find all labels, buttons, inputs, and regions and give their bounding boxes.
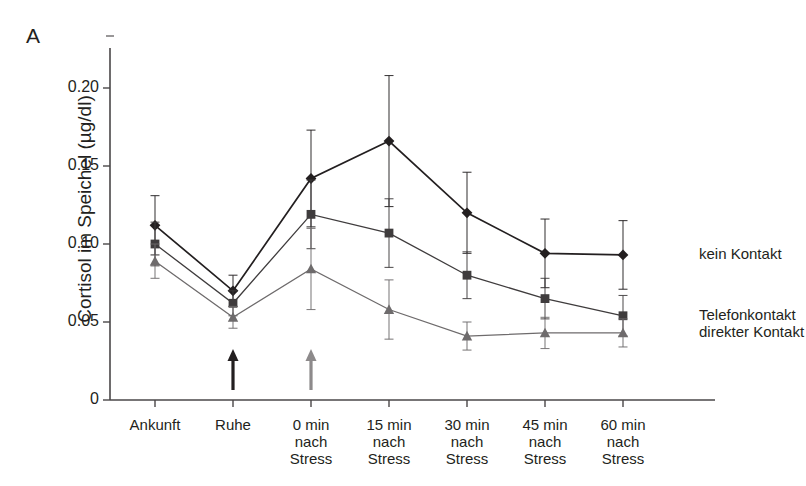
legend-item-triangle: direkter Kontakt xyxy=(699,323,804,340)
x-tick-label-line: Stress xyxy=(368,450,411,467)
legend-item-label: Telefonkontakt xyxy=(699,306,796,323)
arrow-head xyxy=(228,349,239,361)
x-tick-label-line: Ruhe xyxy=(215,416,251,433)
x-tick-label-line: nach xyxy=(373,433,406,450)
marker-triangle xyxy=(150,256,160,266)
marker-triangle xyxy=(384,304,394,314)
marker-diamond xyxy=(540,248,551,259)
legend-item-diamond: kein Kontakt xyxy=(699,245,782,262)
x-tick-label: 15 minnachStress xyxy=(350,416,428,467)
x-tick-label-line: nach xyxy=(295,433,328,450)
x-tick-label-line: Stress xyxy=(446,450,489,467)
marker-square xyxy=(385,229,394,238)
x-tick-label-line: Stress xyxy=(602,450,645,467)
x-tick-label-line: 60 min xyxy=(600,416,645,433)
marker-square xyxy=(307,210,316,219)
legend-item-square: Telefonkontakt xyxy=(699,306,796,323)
y-tick-label: 0.20 xyxy=(47,78,99,96)
marker-diamond xyxy=(618,250,629,261)
annotation-arrows xyxy=(228,349,317,390)
legend-item-label: kein Kontakt xyxy=(699,245,782,262)
panel-label: A xyxy=(26,24,41,48)
x-tick-label-line: 0 min xyxy=(293,416,330,433)
marker-square xyxy=(541,294,550,303)
plot-area xyxy=(0,0,806,486)
x-tick-label-line: nach xyxy=(607,433,640,450)
x-tick-label-line: 45 min xyxy=(522,416,567,433)
x-tick-label: 30 minnachStress xyxy=(428,416,506,467)
chart-figure: A Cortisol im Speichel (µg/dl) 00.050.10… xyxy=(0,0,806,486)
y-tick-label: 0.05 xyxy=(47,312,99,330)
legend-item-label: direkter Kontakt xyxy=(699,323,804,340)
x-tick-label-line: Stress xyxy=(524,450,567,467)
arrow-ruhe-icon xyxy=(228,349,239,390)
x-tick-label: Ankunft xyxy=(116,416,194,433)
x-tick-label-line: nach xyxy=(451,433,484,450)
arrow-head xyxy=(306,349,317,361)
series-kein-kontakt xyxy=(150,76,629,307)
data-series-group xyxy=(150,76,629,351)
y-tick-label: 0.10 xyxy=(47,234,99,252)
x-tick-label: 45 minnachStress xyxy=(506,416,584,467)
marker-triangle xyxy=(228,312,238,322)
x-tick-label-line: nach xyxy=(529,433,562,450)
x-tick-label-line: Ankunft xyxy=(130,416,181,433)
x-tick-label: 60 minnachStress xyxy=(584,416,662,467)
x-tick-label-line: 15 min xyxy=(366,416,411,433)
x-tick-label: 0 minnachStress xyxy=(272,416,350,467)
marker-triangle xyxy=(306,264,316,274)
x-tick-label-line: Stress xyxy=(290,450,333,467)
arrow-stress-icon xyxy=(306,349,317,390)
marker-square xyxy=(463,271,472,280)
x-tick-label: Ruhe xyxy=(194,416,272,433)
x-tick-label-line: 30 min xyxy=(444,416,489,433)
y-tick-label: 0.15 xyxy=(47,156,99,174)
y-tick-label: 0 xyxy=(47,390,99,408)
